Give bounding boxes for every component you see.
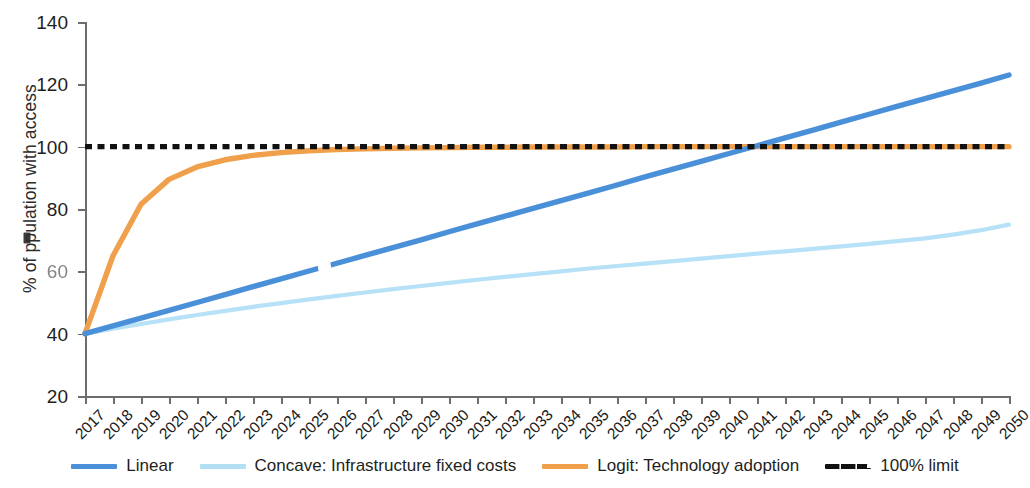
x-axis-tick-mark (841, 396, 843, 404)
x-axis-tick-mark (869, 396, 871, 404)
x-axis-tick-mark (701, 396, 703, 404)
y-axis-tick-label: 120 (22, 75, 68, 94)
legend-label: 100% limit (880, 456, 958, 476)
x-axis-tick-mark (309, 396, 311, 404)
legend-swatch-icon (542, 464, 588, 469)
x-axis-tick-mark (953, 396, 955, 404)
y-axis-tick-label: 140 (22, 13, 68, 32)
y-axis-tick-label: 20 (22, 387, 68, 406)
y-axis-tick-mark (78, 396, 85, 398)
scan-artifact-gap (317, 261, 332, 275)
x-axis-tick-mark (897, 396, 899, 404)
y-axis-tick-mark (78, 209, 85, 211)
legend-label: Linear (126, 456, 173, 476)
x-axis-tick-mark (533, 396, 535, 404)
x-axis-tick-mark (365, 396, 367, 404)
x-axis-tick-mark (253, 396, 255, 404)
legend-item[interactable]: Linear (71, 456, 173, 476)
y-axis-tick-label: 60 (22, 262, 68, 281)
x-axis-tick-mark (449, 396, 451, 404)
x-axis-tick-mark (645, 396, 647, 404)
y-axis-tick-label: 80 (22, 200, 68, 219)
x-axis-tick-mark (505, 396, 507, 404)
x-axis-tick-mark (729, 396, 731, 404)
x-axis-tick-mark (393, 396, 395, 404)
x-axis-tick-mark (169, 396, 171, 404)
x-axis-tick-mark (337, 396, 339, 404)
y-axis-tick-mark (78, 84, 85, 86)
legend-item[interactable]: Concave: Infrastructure fixed costs (200, 456, 517, 476)
x-axis-tick-mark (785, 396, 787, 404)
y-axis-tick-label: 40 (22, 325, 68, 344)
y-axis-tick-label: 100 (22, 138, 68, 157)
y-axis-tick-mark (78, 22, 85, 24)
x-axis-tick-mark (1009, 396, 1011, 404)
chart-container: % of ppulation with access 1401201008060… (0, 0, 1030, 488)
y-axis-tick-mark (78, 147, 85, 149)
legend-swatch-icon (825, 464, 871, 469)
x-axis-tick-mark (925, 396, 927, 404)
legend-item[interactable]: 100% limit (825, 456, 958, 476)
legend-label: Concave: Infrastructure fixed costs (255, 456, 517, 476)
legend-swatch-icon (200, 464, 246, 469)
legend-swatch-icon (71, 464, 117, 469)
x-axis-tick-mark (981, 396, 983, 404)
y-axis-tick-mark (78, 271, 85, 273)
x-axis-tick-mark (197, 396, 199, 404)
x-axis-tick-mark (477, 396, 479, 404)
legend-item[interactable]: Logit: Technology adoption (542, 456, 799, 476)
x-axis-tick-mark (813, 396, 815, 404)
x-axis-tick-mark (421, 396, 423, 404)
x-axis-tick-mark (561, 396, 563, 404)
series-line-concave-infrastructure-fixed-costs (85, 225, 1009, 334)
plot-area: 2017201820192020202120222023202420252026… (85, 22, 1009, 396)
x-axis-tick-mark (141, 396, 143, 404)
series-line-linear (85, 75, 1009, 334)
x-axis-tick-mark (85, 396, 87, 404)
y-axis-title: % of ppulation with access (20, 24, 41, 354)
x-axis-tick-mark (225, 396, 227, 404)
x-axis-tick-mark (757, 396, 759, 404)
chart-legend: LinearConcave: Infrastructure fixed cost… (0, 456, 1030, 476)
x-axis-tick-mark (617, 396, 619, 404)
series-line-logit-technology-adoption (85, 147, 1009, 334)
x-axis-tick-mark (673, 396, 675, 404)
x-axis-tick-mark (113, 396, 115, 404)
x-axis-tick-mark (589, 396, 591, 404)
legend-label: Logit: Technology adoption (597, 456, 799, 476)
series-curves (85, 22, 1009, 396)
x-axis-tick-mark (281, 396, 283, 404)
